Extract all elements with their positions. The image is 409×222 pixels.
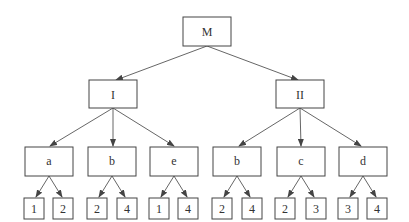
edge-b-4 — [112, 176, 125, 197]
leaf-label: 2 — [94, 202, 100, 216]
leaf-label: 3 — [313, 202, 319, 216]
label-b: b — [109, 154, 115, 168]
label-I: I — [111, 88, 115, 102]
label-a: a — [46, 154, 52, 168]
edge-b2-2 — [224, 176, 237, 197]
edge-d-3 — [350, 176, 363, 197]
edge-c-2 — [288, 176, 301, 197]
edge-II-c — [300, 108, 301, 146]
edge-M-II — [207, 46, 298, 80]
edge-e-4 — [174, 176, 187, 197]
tree-diagram: M I II a b e b c d 1 2 2 4 1 4 2 4 2 3 3… — [0, 0, 409, 222]
edge-M-I — [116, 46, 207, 80]
leaf-label: 2 — [282, 202, 288, 216]
leaf-label: 4 — [374, 202, 380, 216]
label-e: e — [171, 154, 176, 168]
label-II: II — [296, 88, 304, 102]
leaf-label: 2 — [219, 202, 225, 216]
nodes — [24, 17, 387, 219]
edge-c-3 — [301, 176, 314, 197]
edge-b-2 — [99, 176, 112, 197]
leaf-label: 1 — [31, 202, 37, 216]
labels: M I II a b e b c d 1 2 2 4 1 4 2 4 2 3 3… — [31, 25, 380, 216]
label-d: d — [360, 154, 366, 168]
label-b2: b — [234, 154, 240, 168]
leaf-label: 1 — [156, 202, 162, 216]
edge-e-1 — [161, 176, 174, 197]
leaf-label: 4 — [124, 202, 130, 216]
label-M: M — [202, 25, 213, 39]
label-c: c — [298, 154, 303, 168]
edge-II-d — [300, 108, 361, 146]
edge-I-a — [50, 108, 113, 146]
edge-a-2 — [49, 176, 62, 197]
edge-b2-4 — [237, 176, 250, 197]
edge-a-1 — [36, 176, 49, 197]
edge-d-4 — [363, 176, 376, 197]
leaf-label: 3 — [345, 202, 351, 216]
edge-I-e — [113, 108, 174, 146]
edge-II-b — [239, 108, 300, 146]
leaf-label: 2 — [60, 202, 66, 216]
leaf-label: 4 — [249, 202, 255, 216]
leaf-label: 4 — [185, 202, 191, 216]
